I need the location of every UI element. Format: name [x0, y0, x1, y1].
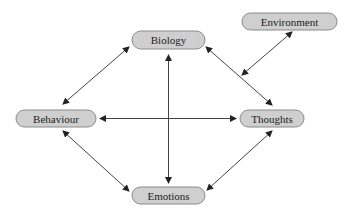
arrow-environment-biology-thoughts-link: [242, 32, 292, 75]
arrow-emotions-thoughts: [207, 131, 272, 190]
node-label-thoughts: Thoughts: [251, 113, 293, 125]
node-emotions: Emotions: [132, 187, 205, 204]
node-environment: Environment: [242, 13, 337, 30]
node-label-environment: Environment: [261, 16, 318, 28]
arrow-behaviour-biology: [63, 47, 129, 104]
concept-diagram: BiologyEnvironmentBehaviourThoughtsEmoti…: [0, 0, 349, 215]
node-behaviour: Behaviour: [16, 110, 96, 127]
node-thoughts: Thoughts: [240, 110, 304, 127]
node-label-biology: Biology: [151, 34, 187, 46]
nodes-layer: BiologyEnvironmentBehaviourThoughtsEmoti…: [16, 13, 337, 204]
node-label-emotions: Emotions: [147, 190, 189, 202]
arrow-behaviour-emotions: [63, 131, 129, 191]
node-biology: Biology: [132, 31, 205, 49]
arrow-biology-thoughts: [206, 47, 272, 105]
node-label-behaviour: Behaviour: [33, 113, 79, 125]
